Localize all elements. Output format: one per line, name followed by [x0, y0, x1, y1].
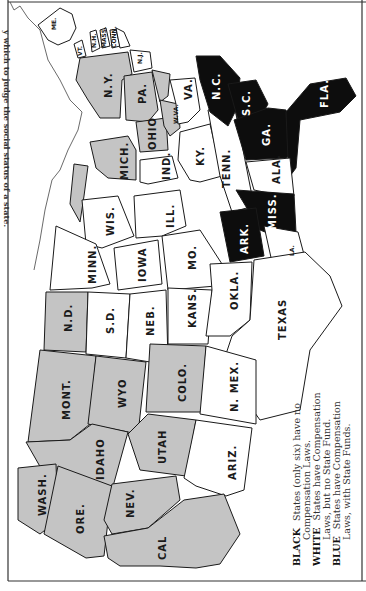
label-wis: WIS.: [105, 206, 116, 236]
label-la: LA.: [288, 245, 295, 256]
label-iowa: IOWA: [137, 247, 148, 282]
label-mich: MICH.: [119, 142, 130, 180]
label-ala: ALA.: [271, 154, 282, 184]
state-me: [38, 8, 76, 45]
label-idaho: IDAHO: [95, 438, 106, 480]
label-ariz: ARIZ.: [227, 445, 238, 480]
label-cal: CAL: [157, 536, 168, 560]
label-sc: S.C.: [241, 90, 252, 116]
label-conn: CONN.: [110, 26, 117, 48]
label-vt: VT.: [76, 46, 83, 56]
label-wyo: WYO: [117, 379, 128, 408]
label-ark: ARK.: [239, 223, 250, 254]
label-fla: FLA.: [319, 79, 330, 108]
label-miss: MISS.: [267, 194, 278, 230]
label-texas: TEXAS: [277, 299, 288, 340]
label-neb: NEB.: [145, 305, 156, 336]
label-kans: KANS.: [187, 288, 198, 328]
label-ga: GA.: [261, 123, 272, 146]
canada-border: [10, 2, 82, 270]
state-ill: [134, 190, 186, 238]
label-pa: PA.: [137, 83, 148, 104]
label-nmex: N. MEX.: [229, 361, 240, 412]
label-ky: KY.: [195, 146, 206, 166]
legend-blue-text2: Laws, with State Funds.: [341, 424, 352, 540]
us-compensation-map: y which to judge the social status of a …: [0, 0, 366, 591]
label-wva: W.VA.: [172, 104, 179, 124]
state-colo: [146, 344, 206, 412]
label-ny: N.Y.: [103, 72, 114, 98]
label-nj: N.J.: [136, 52, 144, 64]
map-legend: BLACK States (only six) have no Compensa…: [291, 392, 352, 567]
label-sd: S.D.: [105, 307, 116, 334]
label-mont: MONT.: [61, 379, 72, 420]
label-nev: NEV.: [125, 489, 136, 518]
label-va: VA.: [183, 78, 194, 100]
state-ala: [246, 158, 294, 196]
label-ore: ORE.: [75, 503, 86, 534]
label-nd: N.D.: [63, 304, 74, 332]
label-tenn: TENN.: [221, 149, 232, 188]
label-colo: COLO.: [177, 363, 188, 402]
label-utah: UTAH: [157, 430, 168, 464]
label-wash: WASH.: [37, 473, 48, 516]
label-me: ME.: [50, 18, 57, 30]
label-mass: MASS.: [100, 27, 107, 48]
label-nh: N.H.: [90, 33, 97, 48]
state-nmex: [200, 346, 256, 424]
map-figure: y which to judge the social status of a …: [0, 0, 366, 591]
label-ind: IND.: [161, 152, 172, 180]
label-minn: MINN.: [87, 245, 98, 284]
state-ariz: [184, 420, 252, 496]
label-mo: MO.: [187, 245, 198, 270]
label-ill: ILL.: [165, 204, 176, 228]
label-okla: OKLA.: [229, 271, 240, 310]
state-ind: [140, 156, 178, 184]
caption-text: y which to judge the social status of a …: [2, 29, 12, 227]
label-ohio: OHIO: [147, 117, 158, 150]
label-nc: N.C.: [211, 73, 222, 100]
